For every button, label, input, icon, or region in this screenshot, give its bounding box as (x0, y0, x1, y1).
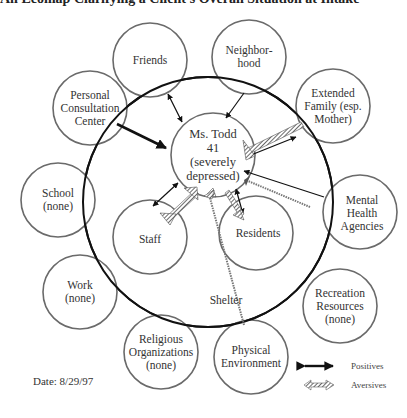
friends-positive-arrow (168, 94, 182, 122)
personal-consultation-label: Personal Consultation Center (61, 89, 120, 128)
shelter-label: Shelter (210, 294, 243, 307)
aversives-legend-arrow (304, 380, 334, 390)
date-label: Date: 8/29/97 (33, 375, 93, 387)
client-age: 41 (186, 141, 239, 155)
neighborhood-text-1: Neighbor- (225, 44, 272, 57)
school-text-2: (none) (42, 200, 74, 213)
legend-aversives-label: Aversives (351, 380, 386, 390)
client-condition-1: (severely (186, 155, 239, 169)
personal-consultation-text-3: Center (61, 115, 120, 128)
recreation-text-1: Recreation (315, 287, 365, 300)
client-label: Ms. Todd 41 (severely depressed) (186, 127, 239, 183)
mental-health-text-3: Agencies (341, 220, 384, 233)
friends-text: Friends (133, 54, 168, 67)
physical-environment-text-1: Physical (221, 344, 281, 357)
school-label: School (none) (42, 187, 74, 213)
school-text-1: School (42, 187, 74, 200)
neighborhood-text-2: hood (225, 57, 272, 70)
extended-family-text-2: Family (esp. (304, 100, 362, 113)
neighborhood-positive-arrow (226, 93, 244, 118)
recreation-label: Recreation Resources (none) (315, 287, 365, 326)
client-name: Ms. Todd (186, 127, 239, 141)
physical-environment-text-2: Environment (221, 357, 281, 370)
mental-health-text-2: Health (341, 207, 384, 220)
friends-label: Friends (133, 54, 168, 67)
work-label: Work (none) (65, 279, 95, 305)
staff-label: Staff (139, 233, 161, 246)
legend-positives-label: Positives (351, 361, 384, 371)
neighborhood-label: Neighbor- hood (225, 44, 272, 70)
extended-family-text-3: Mother) (304, 113, 362, 126)
mental-health-text-1: Mental (341, 194, 384, 207)
mental-health-label: Mental Health Agencies (341, 194, 384, 233)
physical-environment-label: Physical Environment (221, 344, 281, 370)
work-text-2: (none) (65, 292, 95, 305)
recreation-text-3: (none) (315, 313, 365, 326)
personal-consultation-text-2: Consultation (61, 102, 120, 115)
personal-consultation-text-1: Personal (61, 89, 120, 102)
residents-label: Residents (236, 227, 281, 240)
work-text-1: Work (65, 279, 95, 292)
client-condition-2: depressed) (186, 169, 239, 183)
legend (304, 366, 334, 390)
personal-consultation-positive-arrow (117, 124, 166, 148)
religious-text-3: (none) (129, 359, 193, 372)
extended-family-label: Extended Family (esp. Mother) (304, 87, 362, 126)
religious-text-1: Religious (129, 333, 193, 346)
religious-text-2: Organizations (129, 346, 193, 359)
staff-text: Staff (139, 233, 161, 246)
extended-family-text-1: Extended (304, 87, 362, 100)
religious-label: Religious Organizations (none) (129, 333, 193, 372)
residents-text: Residents (236, 227, 281, 240)
recreation-text-2: Resources (315, 300, 365, 313)
